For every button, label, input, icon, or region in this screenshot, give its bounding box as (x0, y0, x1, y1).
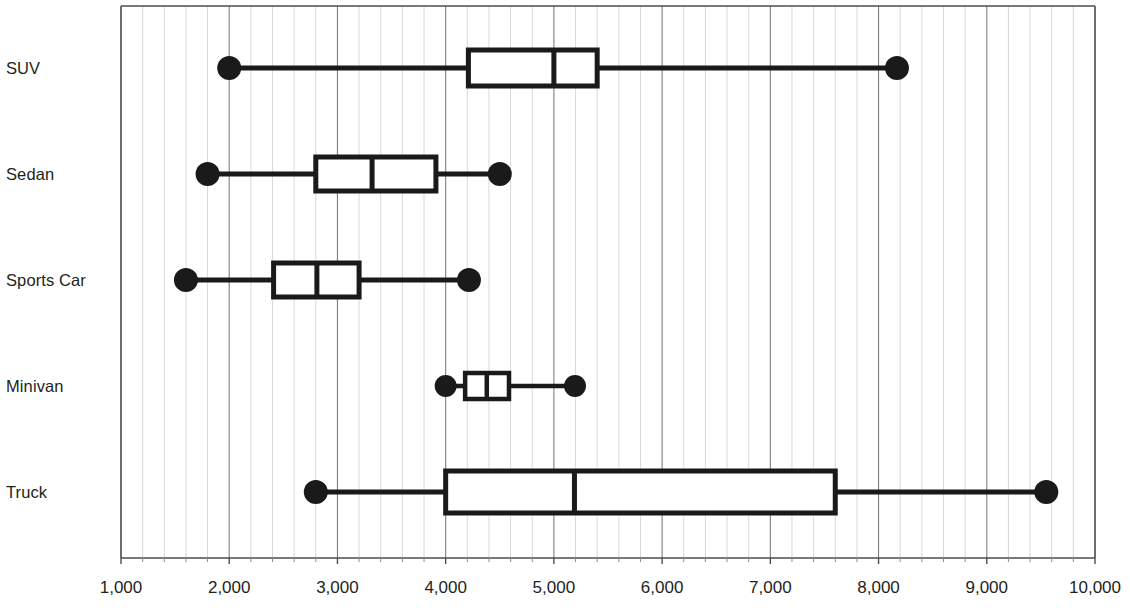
min-marker (196, 162, 220, 186)
category-label-sports-car: Sports Car (6, 271, 86, 290)
x-tick-label: 4,000 (424, 578, 467, 598)
x-tick-label: 6,000 (641, 578, 684, 598)
x-tick-label: 8,000 (857, 578, 900, 598)
box-plot-item (304, 471, 1059, 513)
plot-area (0, 0, 1130, 616)
min-marker (174, 268, 198, 292)
max-marker (488, 162, 512, 186)
box-iqr (446, 471, 836, 513)
x-tick-label: 2,000 (208, 578, 251, 598)
box-iqr (316, 157, 436, 191)
x-tick-label: 3,000 (316, 578, 359, 598)
x-tick-label: 9,000 (965, 578, 1008, 598)
max-marker (564, 375, 586, 397)
x-tick-label: 10,000 (1069, 578, 1121, 598)
category-label-truck: Truck (6, 483, 47, 502)
max-marker (885, 56, 909, 80)
min-marker (217, 56, 241, 80)
x-tick-label: 1,000 (100, 578, 143, 598)
box-plot-item (435, 373, 586, 399)
max-marker (1034, 480, 1058, 504)
box-plot-chart: SUVSedanSports CarMinivanTruck 1,0002,00… (0, 0, 1130, 616)
box-plot-item (217, 50, 909, 86)
category-label-suv: SUV (6, 59, 40, 78)
category-label-minivan: Minivan (6, 377, 64, 396)
x-tick-label: 5,000 (533, 578, 576, 598)
box-iqr (468, 50, 597, 86)
max-marker (457, 268, 481, 292)
min-marker (304, 480, 328, 504)
category-label-sedan: Sedan (6, 165, 54, 184)
box-plot-item (174, 263, 481, 297)
x-tick-label: 7,000 (749, 578, 792, 598)
box-plot-item (196, 157, 512, 191)
min-marker (435, 375, 457, 397)
